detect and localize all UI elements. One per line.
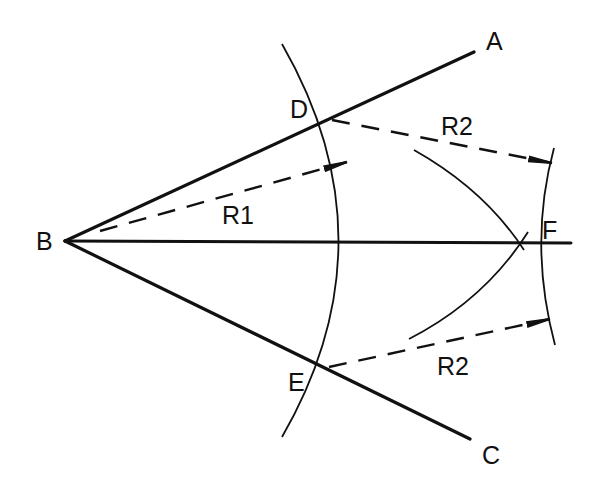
label-point-F: F — [542, 218, 557, 243]
label-point-C: C — [482, 443, 500, 468]
arc-right — [541, 148, 555, 345]
label-point-E: E — [288, 370, 305, 395]
label-point-A: A — [486, 29, 503, 54]
label-r2-upper: R2 — [441, 114, 473, 139]
ray-BC — [65, 241, 470, 439]
bisector-BF — [65, 241, 571, 243]
arc-r2-from-D — [409, 232, 528, 339]
diagram-canvas — [0, 0, 597, 489]
angle-bisection-diagram: A B C D E F R1 R2 R2 — [0, 0, 597, 489]
label-r2-lower: R2 — [437, 354, 469, 379]
label-r1: R1 — [222, 203, 254, 228]
label-point-B: B — [36, 229, 53, 254]
ray-BA — [65, 52, 474, 241]
label-point-D: D — [290, 97, 308, 122]
arc-r2-from-E — [414, 150, 524, 250]
